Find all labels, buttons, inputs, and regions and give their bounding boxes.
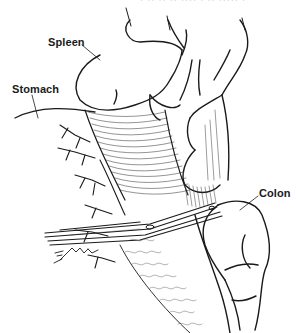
surgical-clamp [45, 203, 222, 245]
omentum-texture [120, 239, 202, 333]
stomach-shape [15, 109, 95, 118]
spleen-shape [76, 20, 192, 120]
leader-lines [32, 45, 258, 210]
gastric-vessels [58, 125, 125, 268]
colon-upper [183, 20, 248, 193]
surgical-illustration: · ·· ·· ·· ···· · ·· ····· · [0, 0, 299, 333]
spleen-label: Spleen [48, 36, 85, 48]
top-edge-fragments [126, 8, 245, 30]
anatomy-drawing [0, 0, 299, 333]
stomach-leader [32, 95, 38, 118]
colon-label: Colon [259, 187, 291, 199]
stomach-label: Stomach [12, 83, 59, 95]
